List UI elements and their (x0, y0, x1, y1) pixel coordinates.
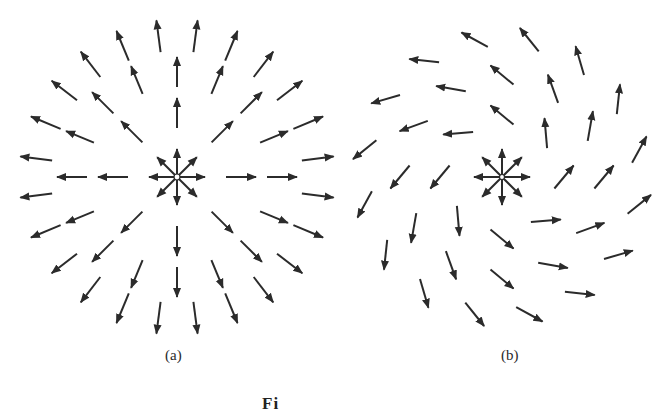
vector-arrow (594, 166, 613, 189)
vector-arrow (157, 177, 177, 197)
vector-arrow (277, 254, 302, 274)
vector-arrow (538, 263, 568, 268)
vector-arrow (302, 156, 334, 160)
vector-arrow (131, 66, 143, 94)
vector-arrow (520, 28, 539, 51)
vector-arrow (177, 177, 197, 197)
vector-arrow (117, 293, 129, 323)
vector-arrow (121, 212, 142, 233)
vector-arrow (491, 269, 514, 288)
vector-arrow (157, 157, 177, 177)
vector-arrow (193, 20, 197, 52)
vector-arrow (241, 241, 262, 262)
vector-arrow (52, 81, 77, 101)
vector-arrow (260, 131, 288, 143)
vector-arrow (482, 177, 502, 197)
vector-arrow (254, 52, 274, 77)
vector-arrow (462, 33, 488, 47)
vector-arrow (565, 292, 595, 295)
vector-arrow (212, 121, 233, 142)
vector-arrow (545, 118, 548, 148)
vector-arrow (491, 229, 514, 248)
vector-arrow (554, 166, 573, 189)
vector-arrow (548, 75, 558, 103)
vector-arrow (400, 121, 428, 131)
vector-arrow (20, 193, 52, 197)
vector-arrow (156, 302, 160, 334)
vector-arrow (390, 166, 409, 189)
vector-arrow (516, 307, 542, 321)
vector-arrow (121, 121, 142, 142)
vector-arrow (277, 81, 302, 101)
vector-arrow (52, 254, 77, 274)
vector-arrow (446, 251, 456, 279)
vector-arrow (254, 277, 274, 302)
vector-arrow (66, 211, 94, 223)
vector-arrow (632, 137, 646, 163)
source-point-b (500, 175, 505, 180)
vector-arrow (156, 20, 160, 52)
vector-arrow (531, 220, 561, 223)
vector-arrow (20, 156, 52, 160)
vector-arrow (358, 191, 372, 217)
vector-arrow (131, 260, 143, 288)
vector-arrow (193, 302, 197, 334)
vector-arrow (177, 157, 197, 177)
vector-arrow (465, 303, 484, 326)
vector-arrow (212, 212, 233, 233)
vector-arrow (588, 111, 593, 141)
vector-arrow (576, 223, 604, 233)
vector-arrow (293, 225, 323, 237)
vector-arrow (491, 65, 514, 84)
vector-arrow (31, 225, 61, 237)
vector-arrow (92, 241, 113, 262)
vector-arrow (604, 251, 633, 259)
vector-arrow (576, 46, 584, 75)
source-point-a (174, 174, 180, 180)
vector-arrow (491, 105, 514, 124)
vector-arrow (384, 240, 387, 270)
vector-arrow (211, 260, 223, 288)
vector-arrow (502, 157, 522, 177)
vector-arrow (302, 193, 334, 197)
vector-arrow (81, 277, 101, 302)
vector-arrow (457, 206, 460, 236)
vector-arrow (241, 92, 262, 113)
vector-arrow (430, 166, 449, 189)
vector-arrow (81, 52, 101, 77)
vector-arrow (353, 140, 376, 159)
vector-arrow (420, 279, 428, 308)
vector-arrow (225, 31, 237, 61)
vector-arrow (628, 195, 651, 214)
vector-arrow (411, 213, 416, 243)
vector-arrow (260, 211, 288, 223)
vector-arrow (211, 66, 223, 94)
vector-arrow (66, 131, 94, 143)
vector-arrow (225, 293, 237, 323)
panel-a-label: (a) (165, 347, 182, 364)
vector-arrow (293, 117, 323, 129)
vector-arrow (617, 84, 620, 114)
vector-arrow (443, 132, 473, 135)
vector-arrow (502, 177, 522, 197)
vector-arrow (31, 117, 61, 129)
vector-arrow (482, 157, 502, 177)
vector-arrow (92, 92, 113, 113)
vector-arrow (409, 59, 439, 62)
vector-arrow (436, 86, 466, 91)
figure-caption-partial: Fi (262, 394, 279, 413)
panel-b-label: (b) (501, 347, 519, 364)
vector-arrow (371, 95, 400, 103)
vector-arrow (117, 31, 129, 61)
